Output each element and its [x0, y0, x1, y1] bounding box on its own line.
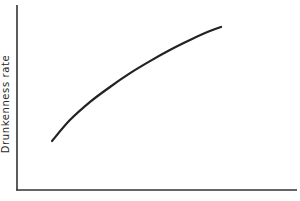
line-chart: [0, 0, 300, 201]
y-axis-label: Drunkenness rate: [0, 55, 11, 153]
data-curve: [52, 27, 221, 141]
